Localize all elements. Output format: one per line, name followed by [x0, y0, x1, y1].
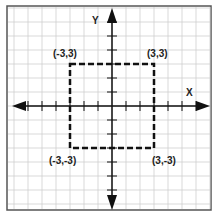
- vertex-label-bottom-left: (-3,-3): [49, 155, 76, 166]
- vertex-label-top-right: (3,3): [147, 48, 168, 59]
- plane-border: [7, 6, 211, 210]
- vertex-label-bottom-right: (3,-3): [152, 155, 176, 166]
- x-axis-label: X: [186, 87, 193, 98]
- vertex-label-top-left: (-3,3): [53, 48, 77, 59]
- y-axis-label: Y: [92, 15, 99, 26]
- coordinate-plane: X Y (-3,3) (3,3) (3,-3) (-3,-3): [0, 0, 216, 218]
